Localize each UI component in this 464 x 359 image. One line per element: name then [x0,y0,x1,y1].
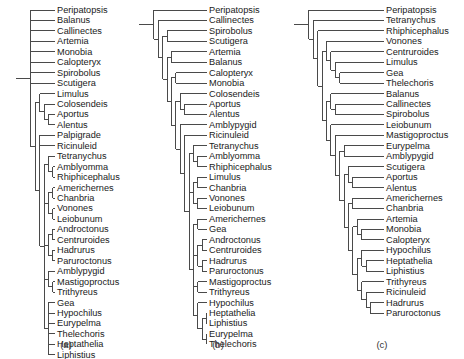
taxon-label: Hypochilus [386,245,431,255]
taxon-label: Amblyomma [209,151,261,161]
panel-caption: (c) [376,339,387,350]
taxon-label: Americhernes [57,183,114,193]
taxon-label: Rhiphicephalus [209,162,272,172]
branch-group [139,10,207,344]
branch-group [16,10,55,355]
taxon-label: Vonones [386,36,422,46]
taxon-label: Trithyreus [209,287,250,297]
taxon-label: Androctonus [209,235,261,245]
taxon-label: Ricinuleid [386,287,426,297]
taxon-label: Thelechoris [57,329,105,339]
taxon-label: Artemia [209,47,242,57]
taxon-label: Eurypelma [209,329,254,339]
taxon-label: Eurypelma [57,318,102,328]
taxon-label: Scutigera [386,162,426,172]
taxon-label: Leiobunum [57,214,103,224]
taxon-label: Paruroctonus [386,308,441,318]
taxon-label: Monobia [57,47,93,57]
taxon-label: Artemia [386,214,419,224]
taxon-label: Gea [57,298,75,308]
taxon-label: Centruroides [57,235,110,245]
taxon-label: Mastigoproctus [386,130,449,140]
taxon-label: Spirobolus [57,68,101,78]
taxon-label: Leiobunum [386,120,432,130]
taxon-label: Ricinuleid [209,130,249,140]
taxon-label: Liphistius [57,350,96,359]
taxon-label: Mastigoproctus [209,277,272,287]
taxon-label: Trithyreus [57,287,98,297]
taxon-label: Peripatopsis [209,5,260,15]
taxon-label: Amblypygid [209,120,257,130]
taxon-label: Chanbria [386,203,424,213]
taxon-label: Liphistius [386,266,425,276]
taxon-label: Callinectes [57,26,102,36]
cladogram-panel-a: PeripatopsisBalanusCallinectesArtemiaMon… [16,5,120,359]
taxon-label: Tetranychus [386,15,436,25]
taxon-label: Limulus [209,172,241,182]
panel-caption: (a) [60,339,72,350]
taxon-label: Centruroides [386,47,439,57]
taxon-label: Paruroctonus [57,256,112,266]
cladogram-figure: PeripatopsisBalanusCallinectesArtemiaMon… [0,0,464,359]
taxon-label: Hadrurus [209,256,247,266]
panel-caption: (b) [212,339,224,350]
taxon-label: Hypochilus [209,298,254,308]
taxon-label: Scutigera [57,78,97,88]
taxon-label: Aportus [386,172,418,182]
taxon-label: Balanus [209,57,243,67]
taxon-label: Artemia [57,36,90,46]
taxon-label: Eurypelma [386,141,431,151]
taxon-label: Thelechoris [386,78,434,88]
taxon-label: Callinectes [209,15,254,25]
taxon-label: Spirobolus [209,26,253,36]
taxon-label: Alentus [209,109,240,119]
taxon-label: Limulus [57,89,89,99]
taxon-label: Tetranychus [57,151,107,161]
taxon-label: Calopteryx [386,235,430,245]
taxon-label: Gea [209,224,227,234]
taxon-label: Palpigrade [57,130,101,140]
taxon-label: Hypochilus [57,308,102,318]
taxon-label: Colosendeis [57,99,108,109]
taxon-label: Americhernes [209,214,266,224]
taxon-label: Vonones [57,203,93,213]
taxon-label: Colosendeis [209,89,260,99]
taxon-label: Spirobolus [386,109,430,119]
taxon-label: Monobia [386,224,422,234]
taxon-label: Leiobunum [209,203,255,213]
taxon-label: Amblyomma [57,162,109,172]
taxon-label: Heptathelia [386,256,433,266]
taxon-label: Aportus [209,99,241,109]
taxon-label: Rhiphicephalus [386,26,449,36]
taxon-label: Gea [386,68,404,78]
branch-group [294,10,384,313]
taxon-label: Androctonus [57,224,109,234]
taxon-label: Peripatopsis [386,5,437,15]
taxon-label: Ricinuleid [57,141,97,151]
cladogram-panel-b: PeripatopsisCallinectesSpirobolusScutige… [139,5,272,350]
taxon-label: Hadrurus [57,245,95,255]
taxon-label: Peripatopsis [57,5,108,15]
taxon-label: Amblypygid [57,266,105,276]
taxon-label: Paruroctonus [209,266,264,276]
cladogram-canvas: PeripatopsisBalanusCallinectesArtemiaMon… [0,0,464,359]
taxon-label: Balanus [57,15,91,25]
taxon-label: Chanbria [57,193,95,203]
cladogram-panel-c: PeripatopsisTetranychusRhiphicephalusVon… [294,5,449,350]
taxon-label: Vonones [209,193,245,203]
taxon-label: Calopteryx [209,68,253,78]
taxon-label: Limulus [386,57,418,67]
taxon-label: Amblypygid [386,151,434,161]
taxon-label: Liphistius [209,318,248,328]
taxon-label: Aportus [57,109,89,119]
taxon-label: Heptathelia [209,308,256,318]
taxon-label: Calopteryx [57,57,101,67]
taxon-label: Hadrurus [386,298,424,308]
taxon-label: Rhiphicephalus [57,172,120,182]
taxon-label: Chanbria [209,183,247,193]
taxon-label: Tetranychus [209,141,259,151]
taxon-label: Americhernes [386,193,443,203]
taxon-label: Monobia [209,78,245,88]
taxon-label: Centruroides [209,245,262,255]
taxon-label: Alentus [386,183,417,193]
